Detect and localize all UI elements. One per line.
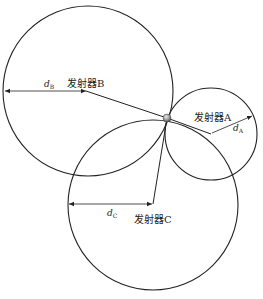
label-distance-a: dA xyxy=(233,123,244,134)
label-transmitter-c: 发射器C xyxy=(134,213,172,225)
trilateration-diagram: 发射器B 发射器A 发射器C dB dA dC xyxy=(0,0,263,299)
label-distance-b: dB xyxy=(44,79,55,90)
label-transmitter-b: 发射器B xyxy=(67,77,104,89)
line-c-to-receiver xyxy=(153,118,167,204)
receiver-point-icon xyxy=(163,114,171,122)
label-distance-c: dC xyxy=(107,208,118,219)
label-transmitter-a: 发射器A xyxy=(194,111,232,123)
line-b-to-receiver xyxy=(86,91,167,118)
